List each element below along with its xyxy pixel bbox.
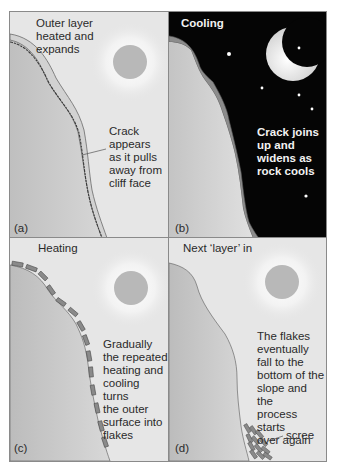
sun-icon — [114, 271, 148, 305]
panel-d-label: (d) — [175, 442, 189, 454]
panel-b-annotation: Crack joins up and widens as rock cools — [257, 126, 319, 178]
panel-a-annotation: Crack appears as it pulls away from clif… — [109, 125, 162, 190]
panel-b-caption: Cooling — [181, 17, 224, 30]
panel-a-caption: Outer layer heated and expands — [36, 17, 94, 56]
panel-a: Outer layer heated and expands Crack app… — [10, 12, 169, 238]
panel-c-label: (c) — [14, 442, 27, 454]
panel-d: Next ‘layer’ in The flakes eventually fa… — [169, 238, 326, 461]
panel-a-label: (a) — [14, 222, 28, 234]
panel-d-caption: Next ‘layer’ in — [183, 242, 252, 255]
panel-b-illustration — [169, 12, 326, 238]
panel-b-label: (b) — [175, 222, 189, 234]
sun-icon — [113, 45, 147, 79]
sun-icon — [265, 265, 299, 299]
weathering-diagram: Outer layer heated and expands Crack app… — [9, 11, 327, 462]
panel-c: Heating Gradually the repeated heating a… — [10, 238, 169, 461]
panel-c-annotation: Gradually the repeated heating and cooli… — [103, 338, 168, 442]
scree-callout: scree — [286, 429, 314, 441]
panel-c-caption: Heating — [38, 242, 78, 255]
panel-b: Cooling Crack joins up and widens as roc… — [169, 12, 326, 238]
